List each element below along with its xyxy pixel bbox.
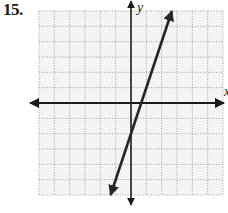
- coordinate-plane: y x: [0, 0, 228, 213]
- x-axis-label: x: [223, 84, 228, 99]
- y-axis-label: y: [135, 0, 144, 15]
